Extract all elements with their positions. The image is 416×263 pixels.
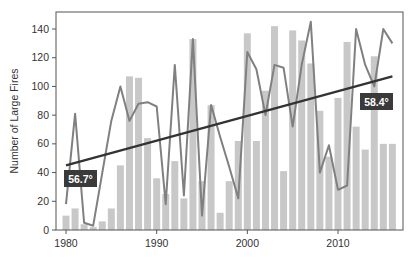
y-tick-label: 20 [37,195,49,207]
bar [81,224,88,230]
bar [180,198,187,230]
bar [362,150,369,230]
y-axis: 020406080100120140 [31,23,56,236]
bar [335,98,342,230]
y-tick-label: 0 [43,224,49,236]
bar [171,161,178,230]
bar [325,157,332,230]
bar [253,141,260,230]
bar [63,216,70,230]
fires-chart: 020406080100120140 1980199020002010 Numb… [0,0,416,263]
bar [280,171,287,230]
badge-start: 56.7° [64,170,97,187]
x-tick-label: 2010 [326,237,350,249]
badge-end: 58.4° [360,93,393,110]
bar [389,144,396,230]
bar [153,178,160,230]
y-tick-label: 140 [31,23,49,35]
y-axis-title: Number of Large Fires [8,68,20,173]
bar [307,63,314,230]
bar [126,76,133,230]
bar [289,30,296,230]
y-tick-label: 80 [37,109,49,121]
y-tick-label: 120 [31,51,49,63]
x-tick-label: 1990 [145,237,169,249]
bar [217,213,224,230]
bar [135,78,142,230]
y-tick-label: 60 [37,137,49,149]
x-axis: 1980199020002010 [54,230,350,249]
bar [99,221,106,230]
bar-series [63,26,396,230]
x-tick-label: 2000 [236,237,260,249]
bar [380,144,387,230]
badge-end-text: 58.4° [364,96,389,108]
bar [226,181,233,230]
bar [117,165,124,230]
y-tick-label: 40 [37,166,49,178]
badge-start-text: 56.7° [68,173,93,185]
bar [271,26,278,230]
x-tick-label: 1980 [54,237,78,249]
bar [144,138,151,230]
bar [108,208,115,230]
bar [353,127,360,230]
bar [72,208,79,230]
trend-line [66,76,392,165]
y-tick-label: 100 [31,80,49,92]
